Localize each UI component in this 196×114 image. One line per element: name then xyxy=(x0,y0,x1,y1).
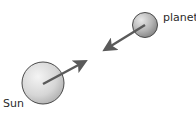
planet-label: planet xyxy=(163,11,196,24)
gravity-diagram: planet Sun xyxy=(0,0,196,114)
sun-label: Sun xyxy=(3,97,24,110)
force-arrow-on-planet xyxy=(106,25,145,49)
